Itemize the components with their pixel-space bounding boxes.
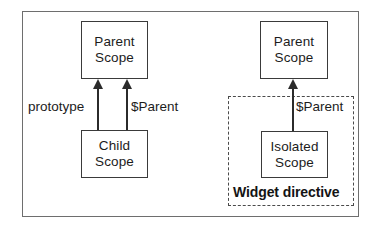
- node-label-line1: Parent: [274, 34, 314, 50]
- node-label-line2: Scope: [95, 50, 134, 66]
- node-label-line1: Isolated: [270, 139, 318, 155]
- node-parent-scope-right: Parent Scope: [260, 21, 328, 79]
- node-label-line1: Parent: [94, 34, 134, 50]
- edge-label-prototype: prototype: [28, 99, 84, 114]
- node-label-line2: Scope: [95, 154, 134, 170]
- node-child-scope: Child Scope: [81, 130, 148, 178]
- arrow-shaft: [97, 88, 99, 131]
- node-parent-scope-left: Parent Scope: [81, 21, 148, 79]
- arrow-shaft: [126, 88, 128, 131]
- arrow-shaft: [292, 88, 294, 132]
- node-isolated-scope: Isolated Scope: [261, 131, 328, 178]
- node-label-line2: Scope: [275, 50, 314, 66]
- widget-directive-caption: Widget directive: [233, 184, 339, 201]
- edge-label-parent-right: $Parent: [296, 99, 343, 114]
- node-label-line1: Child: [99, 138, 130, 154]
- diagram-canvas: Parent Scope Child Scope Parent Scope Is…: [0, 0, 383, 230]
- node-label-line2: Scope: [275, 155, 314, 171]
- edge-label-parent-left: $Parent: [131, 99, 178, 114]
